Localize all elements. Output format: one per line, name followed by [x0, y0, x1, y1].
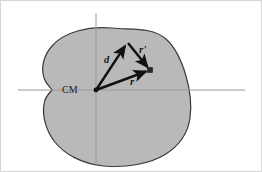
vector-r-prime-label: r' — [139, 43, 146, 55]
rigid-body-blob — [43, 28, 191, 167]
vector-r-label: r — [130, 75, 135, 87]
mass-element-point-marker — [148, 68, 153, 73]
vector-d-label: d — [104, 54, 110, 65]
center-of-mass-dot — [94, 88, 99, 93]
center-of-mass-label: CM — [62, 84, 78, 95]
vector-diagram-svg: CM d r' r — [0, 0, 262, 172]
figure-container: CM d r' r — [0, 0, 262, 172]
